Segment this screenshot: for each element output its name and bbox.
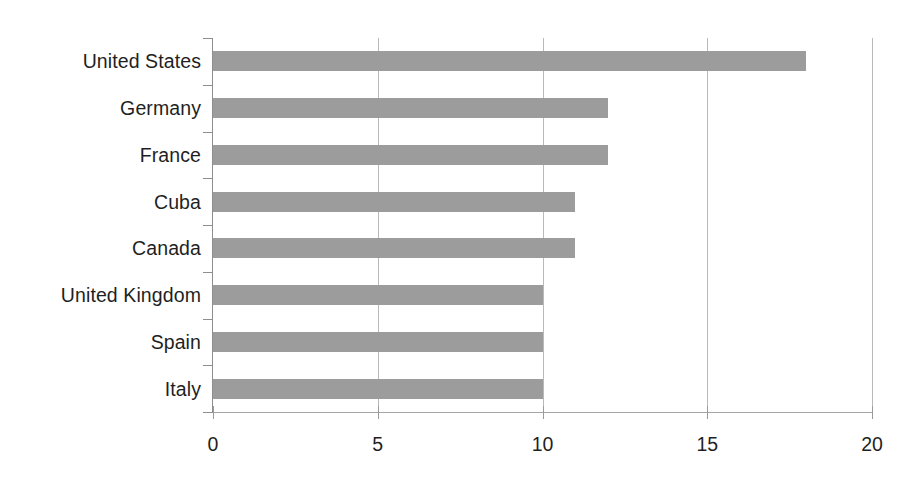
y-axis-tick bbox=[203, 132, 212, 133]
x-axis-tick bbox=[543, 406, 544, 419]
gridline bbox=[378, 38, 379, 412]
x-axis-tick bbox=[378, 406, 379, 419]
category-label: Spain bbox=[0, 332, 201, 352]
bar bbox=[213, 332, 543, 352]
y-axis-tick bbox=[203, 412, 212, 413]
plot-area bbox=[213, 38, 872, 412]
gridline bbox=[872, 38, 873, 412]
category-label: Germany bbox=[0, 98, 201, 118]
y-axis-tick bbox=[203, 365, 212, 366]
category-label: United States bbox=[0, 51, 201, 71]
category-label: Canada bbox=[0, 238, 201, 258]
x-axis-tick-label: 5 bbox=[338, 432, 418, 456]
x-axis-tick-label: 15 bbox=[667, 432, 747, 456]
y-axis-tick bbox=[203, 319, 212, 320]
bar bbox=[213, 285, 543, 305]
gridline bbox=[707, 38, 708, 412]
bar bbox=[213, 192, 575, 212]
x-axis-tick-label: 20 bbox=[832, 432, 909, 456]
x-axis-tick-label: 0 bbox=[173, 432, 253, 456]
category-label: Cuba bbox=[0, 192, 201, 212]
category-axis-labels: United States Germany France Cuba Canada… bbox=[0, 38, 201, 412]
bar bbox=[213, 51, 806, 71]
bar-chart: United States Germany France Cuba Canada… bbox=[0, 0, 909, 493]
y-axis-tick bbox=[203, 178, 212, 179]
bar bbox=[213, 238, 575, 258]
x-axis-tick-label: 10 bbox=[503, 432, 583, 456]
y-axis-tick bbox=[203, 225, 212, 226]
x-axis-tick bbox=[872, 406, 873, 419]
y-axis-tick bbox=[203, 85, 212, 86]
gridline bbox=[543, 38, 544, 412]
category-label: United Kingdom bbox=[0, 285, 201, 305]
category-label: France bbox=[0, 145, 201, 165]
y-axis-tick bbox=[203, 38, 212, 39]
y-axis-tick bbox=[203, 272, 212, 273]
bar bbox=[213, 145, 608, 165]
x-axis-tick bbox=[707, 406, 708, 419]
x-axis-tick bbox=[213, 406, 214, 419]
bar bbox=[213, 379, 543, 399]
category-label: Italy bbox=[0, 379, 201, 399]
bar bbox=[213, 98, 608, 118]
